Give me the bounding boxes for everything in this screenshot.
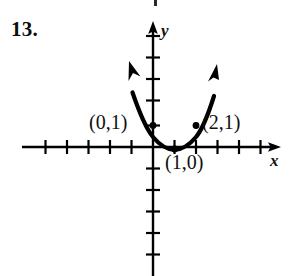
left-branch-arrowhead	[129, 61, 141, 81]
x-axis-label: x	[270, 152, 279, 169]
point-marker-0-1	[150, 122, 157, 129]
point-label-left: (0,1)	[89, 112, 127, 132]
point-marker-2-1	[193, 122, 200, 129]
coordinate-graph	[0, 0, 289, 276]
point-label-right: (2,1)	[202, 112, 240, 132]
right-branch-arrowhead	[208, 64, 219, 82]
y-axis-label: y	[161, 22, 169, 39]
math-figure: 13.	[0, 0, 289, 276]
point-label-vertex: (1,0)	[165, 152, 203, 172]
